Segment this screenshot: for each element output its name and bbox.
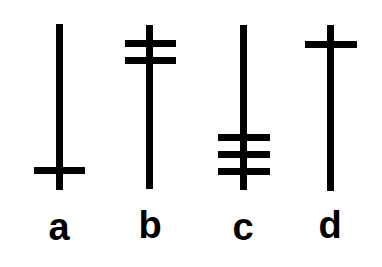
symbol-c-label: c: [223, 208, 263, 246]
symbol-d-crossbar-1: [305, 41, 357, 48]
symbol-d-stem: [327, 25, 334, 191]
symbol-b-stem: [146, 25, 153, 189]
symbol-b-label: b: [130, 206, 170, 244]
symbol-c-crossbar-1: [218, 134, 270, 141]
symbol-a-stem: [56, 24, 63, 190]
symbol-b-crossbar-2: [125, 57, 176, 64]
symbol-d-label: d: [310, 206, 350, 244]
symbol-b-crossbar-1: [125, 40, 176, 47]
symbol-a-label: a: [39, 208, 79, 246]
symbol-a-crossbar-1: [34, 167, 85, 174]
symbol-c-stem: [240, 25, 247, 190]
symbol-c-crossbar-3: [218, 168, 270, 175]
symbol-c-crossbar-2: [218, 151, 270, 158]
